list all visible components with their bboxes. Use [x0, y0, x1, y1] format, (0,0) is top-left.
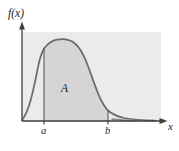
x-axis-arrowhead: [160, 118, 168, 124]
x-tick-label-b: b: [105, 126, 110, 137]
density-curve-chart: [0, 0, 179, 151]
y-axis-arrowhead: [19, 22, 25, 30]
area-label: A: [61, 83, 68, 95]
y-axis-label: f(x): [8, 8, 24, 20]
figure-container: f(x) x a b A: [0, 0, 179, 151]
x-axis-label: x: [168, 121, 173, 132]
x-tick-label-a: a: [41, 126, 46, 137]
